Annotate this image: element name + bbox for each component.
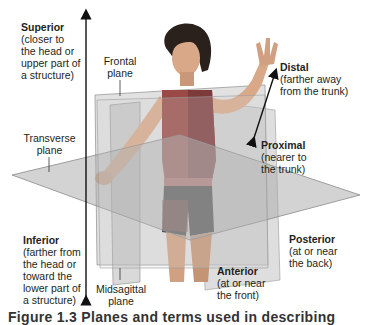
- posterior-desc-line: the back): [289, 257, 337, 269]
- proximal-desc-line: (nearer to: [261, 151, 307, 163]
- inferior-desc-line: (farther from: [23, 246, 81, 258]
- anterior-label: Anterior (at or near the front): [217, 265, 265, 301]
- superior-label: Superior (closer to the head or upper pa…: [21, 21, 81, 81]
- frontal-plane-front: [97, 95, 268, 268]
- anterior-desc-line: (at or near: [217, 277, 265, 289]
- posterior-desc-line: (at or near: [289, 245, 337, 257]
- superior-title: Superior: [21, 21, 81, 33]
- transverse-plane-label: Transverse plane: [12, 132, 87, 156]
- frontal-plane-label-line: Frontal: [100, 55, 140, 67]
- figure-caption: Figure 1.3 Planes and terms used in desc…: [8, 309, 335, 325]
- posterior-label: Posterior (at or near the back): [289, 233, 337, 269]
- superior-desc-line: a structure): [21, 69, 81, 81]
- inferior-title: Inferior: [23, 234, 81, 246]
- anterior-desc-line: the front): [217, 289, 265, 301]
- frontal-plane-label-line: plane: [100, 67, 140, 79]
- distal-title: Distal: [280, 61, 348, 73]
- anterior-title: Anterior: [217, 265, 265, 277]
- inferior-label: Inferior (farther from the head or towar…: [23, 234, 81, 306]
- proximal-title: Proximal: [261, 139, 307, 151]
- distal-desc-line: (farther away: [280, 73, 348, 85]
- superior-desc-line: (closer to: [21, 33, 81, 45]
- superior-desc-line: upper part of: [21, 57, 81, 69]
- distal-label: Distal (farther away from the trunk): [280, 61, 348, 97]
- transverse-plane-label-line: Transverse: [12, 132, 87, 144]
- posterior-title: Posterior: [289, 233, 337, 245]
- proximal-desc-line: the trunk): [261, 163, 307, 175]
- inferior-desc-line: a structure): [23, 294, 81, 306]
- frontal-plane-label: Frontal plane: [100, 55, 140, 79]
- distal-desc-line: from the trunk): [280, 85, 348, 97]
- superior-desc-line: the head or: [21, 45, 81, 57]
- midsagittal-plane-label-line: Midsagittal: [90, 283, 152, 295]
- transverse-plane-label-line: plane: [12, 144, 87, 156]
- inferior-desc-line: the head or: [23, 258, 81, 270]
- inferior-desc-line: lower part of: [23, 282, 81, 294]
- proximal-label: Proximal (nearer to the trunk): [261, 139, 307, 175]
- midsagittal-plane-label: Midsagittal plane: [90, 283, 152, 307]
- inferior-desc-line: toward the: [23, 270, 81, 282]
- midsagittal-plane-label-line: plane: [90, 295, 152, 307]
